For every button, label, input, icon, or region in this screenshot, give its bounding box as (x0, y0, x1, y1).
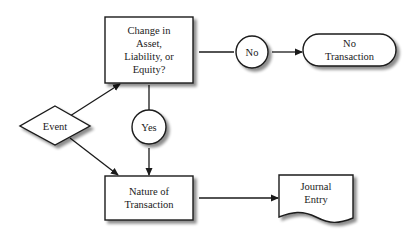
node-no: No (236, 36, 268, 68)
node-journal: Journal Entry (279, 175, 353, 222)
yes-label: Yes (141, 122, 156, 133)
node-no-transaction: No Transaction (303, 34, 396, 66)
node-event: Event (20, 106, 90, 145)
node-nature: Nature of Transaction (105, 176, 193, 220)
decision-label-line-3: Liability, or (124, 51, 174, 62)
edge-event-to-nature (70, 138, 118, 175)
decision-label-line-1: Change in (128, 25, 172, 36)
edge-event-to-decision (70, 84, 120, 116)
journal-label-line-1: Journal (301, 181, 332, 192)
decision-label-line-2: Asset, (136, 38, 162, 49)
journal-label-line-2: Entry (304, 194, 328, 205)
nature-label-line-1: Nature of (129, 186, 169, 197)
no-transaction-label-line-2: Transaction (325, 51, 375, 62)
no-label: No (246, 47, 259, 58)
node-decision: Change in Asset, Liability, or Equity? (105, 17, 193, 83)
nature-label-line-2: Transaction (124, 199, 174, 210)
no-transaction-label-line-1: No (343, 38, 356, 49)
event-label: Event (43, 121, 68, 132)
flowchart-canvas: Event Change in Asset, Liability, or Equ… (0, 0, 413, 237)
node-yes: Yes (132, 110, 166, 144)
decision-label-line-4: Equity? (133, 64, 166, 75)
nature-box (105, 176, 193, 220)
